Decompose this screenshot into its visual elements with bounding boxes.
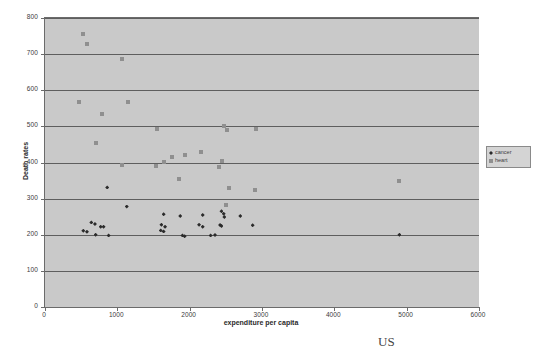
x-axis-title: expenditure per capita [44,319,478,326]
data-point-cancer [197,223,201,227]
legend: cancer heart [486,146,531,168]
legend-marker-square-icon [489,159,493,163]
legend-item-cancer: cancer [489,149,528,157]
data-point-heart [120,163,124,167]
gridline [45,163,479,164]
data-point-cancer [238,214,242,218]
data-point-cancer [159,223,163,227]
data-point-heart [220,159,224,163]
data-point-heart [253,188,257,192]
x-axis-tick-label: 6000 [471,312,486,319]
gridline [45,18,479,19]
y-axis-tick-label: 700 [27,50,38,57]
legend-item-label: cancer [495,150,512,156]
data-point-heart [162,160,166,164]
x-axis-tick-label: 1000 [109,312,124,319]
data-point-heart [155,127,159,131]
gridline [45,126,479,127]
data-point-cancer [89,220,93,224]
x-axis-tick-label: 0 [42,312,46,319]
x-axis-tick-label: 2000 [181,312,196,319]
gridline [45,54,479,55]
data-point-heart [177,177,181,181]
y-axis-tick-label: 100 [27,267,38,274]
data-point-heart [225,128,229,132]
data-point-heart [170,155,174,159]
data-point-cancer [213,233,217,237]
y-axis-tick [41,163,45,164]
gridline [45,271,479,272]
y-axis-tick-label: 0 [34,303,38,310]
data-point-cancer [251,223,255,227]
data-point-cancer [397,233,401,237]
y-axis-tick-label: 500 [27,122,38,129]
data-point-heart [100,112,104,116]
legend-marker-diamond-icon [489,151,493,155]
plot-inner [45,18,479,307]
figure-caption: US [378,334,395,350]
legend-item-heart: heart [489,157,528,165]
y-axis-tick [41,18,45,19]
y-axis-tick [41,235,45,236]
data-point-heart [120,57,124,61]
data-point-heart [154,164,158,168]
y-axis-tick-label: 400 [27,159,38,166]
data-point-heart [254,127,258,131]
plot-area [44,17,479,307]
data-point-heart [199,150,203,154]
data-point-cancer [201,213,205,217]
data-point-heart [397,179,401,183]
y-axis-tick [41,90,45,91]
x-axis-tick-label: 4000 [326,312,341,319]
data-point-heart [94,141,98,145]
legend-item-label: heart [495,158,508,164]
data-point-cancer [93,222,97,226]
y-axis-tick [41,54,45,55]
chart-screenshot: Death rates 0100200300400500600700800 01… [0,0,544,363]
y-axis-tick [41,271,45,272]
data-point-cancer [201,225,205,229]
data-point-heart [81,32,85,36]
y-axis-tick-label: 200 [27,231,38,238]
data-point-cancer [178,214,182,218]
data-point-cancer [125,205,129,209]
data-point-heart [126,100,130,104]
data-point-heart [227,186,231,190]
data-point-cancer [162,212,166,216]
y-axis-tick [41,199,45,200]
x-axis-tick-label: 5000 [398,312,413,319]
y-axis-tick [41,126,45,127]
y-axis-tick-label: 600 [27,86,38,93]
x-axis-tick-label: 3000 [254,312,269,319]
data-point-cancer [222,215,226,219]
data-point-heart [85,42,89,46]
y-axis-tick-label: 300 [27,195,38,202]
data-point-heart [183,153,187,157]
data-point-cancer [94,233,98,237]
gridline [45,199,479,200]
data-point-heart [77,100,81,104]
y-axis-tick-label: 800 [27,14,38,21]
data-point-heart [224,203,228,207]
data-point-heart [217,165,221,169]
data-point-cancer [102,225,106,229]
data-point-cancer [105,185,109,189]
data-point-cancer [81,229,85,233]
data-point-cancer [163,225,167,229]
data-point-cancer [85,230,89,234]
gridline [45,90,479,91]
